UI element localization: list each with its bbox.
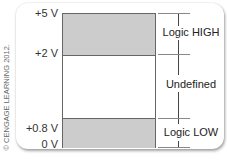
zone-logic-low — [63, 118, 155, 148]
arrow-low-down — [178, 141, 179, 147]
arrow-undef-down — [178, 92, 179, 118]
arrow-undef-up — [178, 55, 179, 75]
copyright-credit: © CENGAGE LEARNING 2012. — [2, 51, 11, 151]
tick-2v — [158, 54, 190, 55]
label-2v: +2 V — [18, 47, 58, 59]
tick-0v — [158, 147, 190, 148]
label-0-8v: +0.8 V — [18, 122, 58, 134]
region-logic-high: Logic HIGH — [160, 26, 222, 38]
arrow-high-up — [178, 14, 179, 26]
region-undefined: Undefined — [160, 78, 222, 90]
arrow-low-up — [178, 119, 179, 124]
arrow-high-down — [178, 40, 179, 54]
tick-5v — [158, 13, 190, 14]
label-5v: +5 V — [18, 7, 58, 19]
label-0v: 0 V — [18, 138, 58, 150]
zone-logic-high — [63, 14, 155, 56]
voltage-bar — [62, 13, 156, 148]
tick-0-8v — [158, 118, 190, 119]
region-logic-low: Logic LOW — [160, 126, 222, 138]
